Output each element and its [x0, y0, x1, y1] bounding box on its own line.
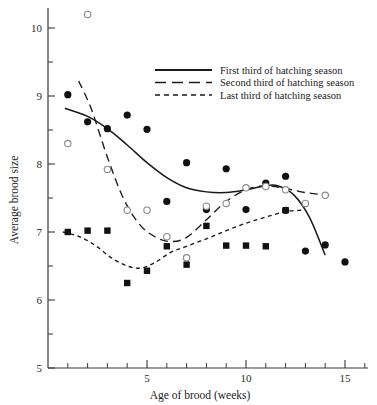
data-point-open-circle: [203, 203, 209, 209]
data-point-filled-circle: [143, 126, 150, 133]
data-point-open-circle: [223, 200, 229, 206]
y-tick-label: 8: [37, 158, 43, 170]
data-point-open-circle: [282, 187, 288, 193]
x-axis-ticks: [68, 360, 365, 368]
brood-size-scatter-plot: 1098765 51015 First third of hatching se…: [0, 0, 377, 405]
legend-label-first-third: First third of hatching season: [220, 65, 343, 76]
data-point-filled-circle: [282, 173, 289, 180]
data-point-open-circle: [183, 255, 189, 261]
data-point-open-circle: [84, 11, 90, 17]
data-point-filled-circle: [183, 159, 190, 166]
data-point-filled-square: [203, 223, 209, 229]
data-point-filled-square: [243, 242, 249, 248]
y-axis-tick-labels: 1098765: [31, 22, 43, 374]
data-point-filled-circle: [104, 125, 111, 132]
y-axis-ticks: [48, 28, 55, 368]
chart-container: 1098765 51015 First third of hatching se…: [0, 0, 377, 405]
data-point-open-circle: [144, 207, 150, 213]
data-point-open-circle: [322, 192, 328, 198]
markers-last-third: [65, 207, 289, 286]
data-point-filled-circle: [322, 241, 329, 248]
data-point-filled-circle: [124, 111, 131, 118]
data-point-filled-square: [144, 268, 150, 274]
data-point-filled-square: [164, 243, 170, 249]
y-tick-label: 5: [37, 362, 43, 374]
data-point-filled-circle: [341, 258, 348, 265]
data-point-filled-square: [104, 227, 110, 233]
data-point-filled-circle: [242, 206, 249, 213]
data-point-filled-circle: [84, 118, 91, 125]
data-point-filled-circle: [302, 247, 309, 254]
data-point-open-circle: [302, 200, 308, 206]
y-tick-label: 10: [31, 22, 43, 34]
data-point-filled-circle: [223, 165, 230, 172]
y-tick-label: 9: [37, 90, 43, 102]
data-point-filled-circle: [163, 198, 170, 205]
data-point-filled-square: [124, 280, 130, 286]
data-point-open-circle: [243, 185, 249, 191]
legend-label-last-third: Last third of hatching season: [220, 90, 342, 101]
data-point-filled-square: [282, 207, 288, 213]
x-axis-title: Age of brood (weeks): [150, 389, 251, 402]
data-point-open-circle: [124, 207, 130, 213]
x-axis-tick-labels: 51015: [144, 372, 351, 384]
data-point-filled-square: [183, 261, 189, 267]
data-point-filled-square: [84, 227, 90, 233]
curve-second-third: [79, 81, 329, 241]
data-point-filled-square: [263, 243, 269, 249]
data-point-filled-circle: [64, 91, 71, 98]
legend-label-second-third: Second third of hatching season: [220, 77, 355, 88]
data-point-filled-square: [223, 242, 229, 248]
data-point-open-circle: [263, 183, 269, 189]
x-tick-label: 5: [144, 372, 150, 384]
curve-first-third: [65, 108, 325, 255]
y-tick-label: 7: [37, 226, 43, 238]
data-point-open-circle: [164, 234, 170, 240]
legend: First third of hatching season Second th…: [155, 65, 355, 101]
series-curves: [63, 81, 329, 268]
y-tick-label: 6: [37, 294, 43, 306]
data-point-filled-square: [65, 229, 71, 235]
curve-last-third: [63, 210, 302, 268]
y-axis-title: Average brood size: [8, 156, 21, 245]
x-tick-label: 15: [340, 372, 352, 384]
data-point-open-circle: [65, 140, 71, 146]
x-tick-label: 10: [241, 372, 253, 384]
markers-second-third: [65, 11, 329, 261]
data-point-open-circle: [104, 166, 110, 172]
